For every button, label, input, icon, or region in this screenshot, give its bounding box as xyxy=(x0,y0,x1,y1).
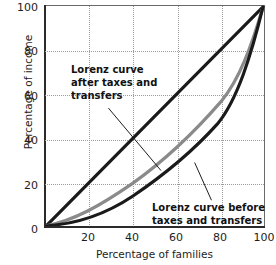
lorenz-curve-figure: 100 80 60 40 20 0 20 40 60 80 100 Percen… xyxy=(0,0,276,265)
annotation-before-taxes: Lorenz curve before taxes and transfers xyxy=(152,202,276,228)
y-tick-label-0: 0 xyxy=(4,224,38,235)
y-axis-title: Percentage of income xyxy=(22,12,34,172)
plot-area xyxy=(44,5,265,228)
x-tick-label-100: 100 xyxy=(249,232,276,243)
y-tick-label-20: 20 xyxy=(4,180,38,191)
annotation-after-line-2: after taxes and xyxy=(71,77,167,90)
x-tick-label-80: 80 xyxy=(205,232,235,243)
equality-line-path xyxy=(46,7,263,226)
annotation-after-line-1: Lorenz curve xyxy=(71,64,167,77)
annotation-before-line-2: taxes and transfers xyxy=(152,215,276,228)
annotation-before-line-1: Lorenz curve before xyxy=(152,202,276,215)
x-tick-label-60: 60 xyxy=(161,232,191,243)
x-tick-label-20: 20 xyxy=(73,232,103,243)
annotation-after-line-3: transfers xyxy=(71,90,167,103)
x-tick-label-40: 40 xyxy=(117,232,147,243)
curve-layer xyxy=(45,6,264,227)
annotation-after-taxes: Lorenz curve after taxes and transfers xyxy=(71,64,167,102)
x-axis-title: Percentage of families xyxy=(44,248,265,260)
leader-line-before xyxy=(195,163,212,201)
